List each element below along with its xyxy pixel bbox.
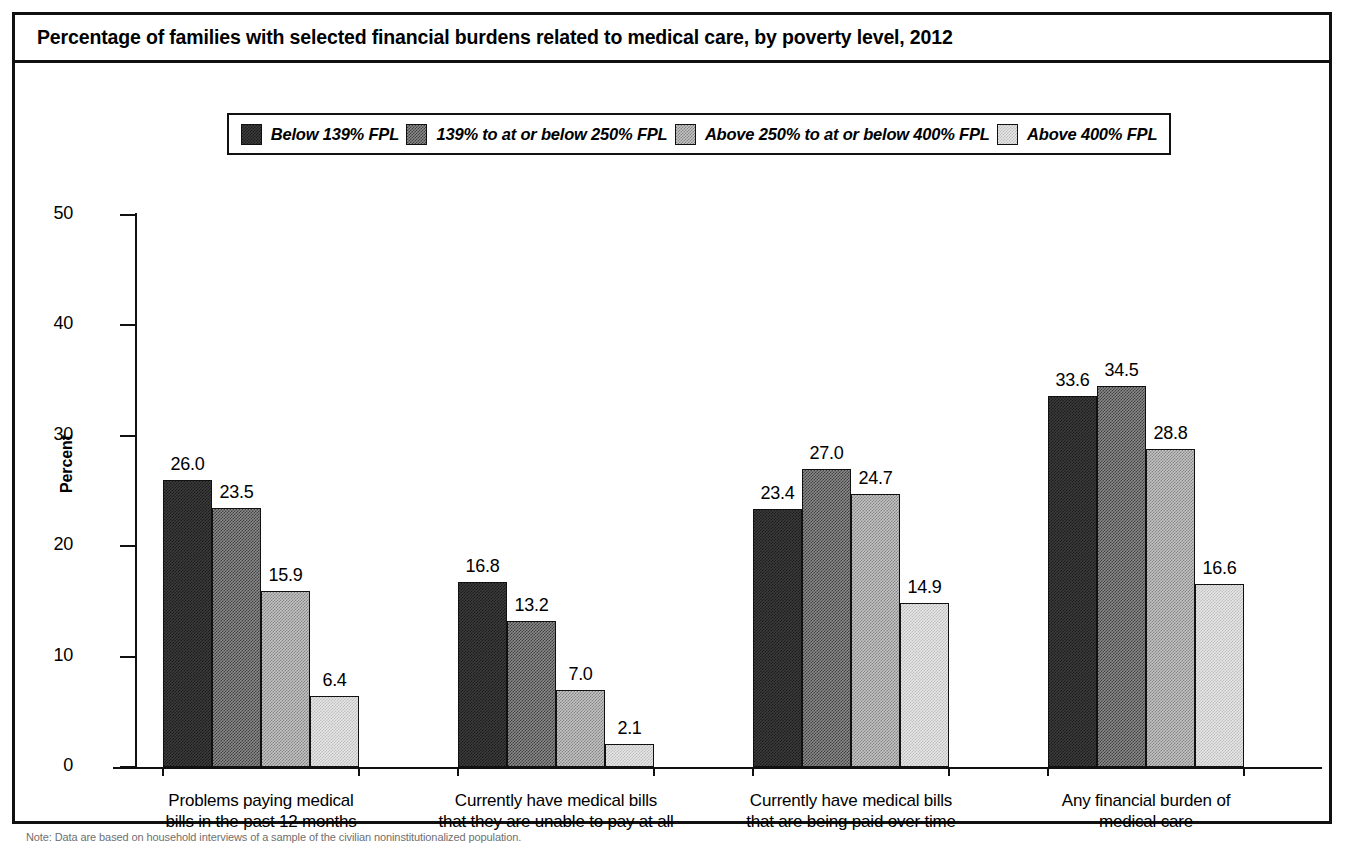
chart-page: Percentage of families with selected fin… xyxy=(0,0,1346,846)
legend-item[interactable]: 139% to at or below 250% FPL xyxy=(406,124,667,145)
legend-item[interactable]: Above 400% FPL xyxy=(997,124,1157,145)
x-axis-tick xyxy=(358,767,360,776)
legend-swatch-icon xyxy=(997,124,1018,145)
y-axis-tick-label: 40 xyxy=(13,313,73,334)
x-axis-tick xyxy=(162,767,164,776)
y-axis-tick-label: 10 xyxy=(13,645,73,666)
legend-label: Above 400% FPL xyxy=(1027,125,1157,144)
bar xyxy=(753,509,802,767)
y-axis-tick xyxy=(120,656,135,658)
bar xyxy=(851,494,900,767)
legend-swatch-icon xyxy=(675,124,696,145)
y-axis-tick xyxy=(120,545,135,547)
bar-value-label: 26.0 xyxy=(152,454,223,475)
bar xyxy=(802,469,851,767)
y-axis-tick xyxy=(120,214,135,216)
bar xyxy=(1195,584,1244,767)
legend-item[interactable]: Above 250% to at or below 400% FPL xyxy=(675,124,990,145)
bar xyxy=(163,480,212,767)
x-axis-category-label: Any financial burden ofmedical care xyxy=(976,790,1316,832)
y-axis-tick xyxy=(120,435,135,437)
bar-value-label: 27.0 xyxy=(791,443,862,464)
x-axis-category-label: Problems paying medicalbills in the past… xyxy=(91,790,431,832)
x-axis-tick xyxy=(1243,767,1245,776)
legend-label: Above 250% to at or below 400% FPL xyxy=(705,125,990,144)
bar-value-label: 16.8 xyxy=(447,556,518,577)
x-axis-tick xyxy=(1047,767,1049,776)
y-axis-tick-label: 20 xyxy=(13,534,73,555)
bar xyxy=(1048,396,1097,767)
x-axis-category-line: bills in the past 12 months xyxy=(91,811,431,832)
x-axis-line xyxy=(113,767,1322,769)
legend-item[interactable]: Below 139% FPL xyxy=(241,124,399,145)
bar xyxy=(1146,449,1195,767)
x-axis-category-line: that are being paid over time xyxy=(681,811,1021,832)
bar xyxy=(261,591,310,767)
x-axis-category-line: that they are unable to pay at all xyxy=(386,811,726,832)
bar xyxy=(556,690,605,767)
legend-swatch-icon xyxy=(241,124,262,145)
x-axis-tick xyxy=(457,767,459,776)
bar xyxy=(900,603,949,767)
y-axis-line xyxy=(135,213,137,769)
x-axis-category-label: Currently have medical billsthat are bei… xyxy=(681,790,1021,832)
bar xyxy=(605,744,654,767)
bar-value-label: 34.5 xyxy=(1086,360,1157,381)
x-axis-category-line: Problems paying medical xyxy=(91,790,431,811)
chart-legend: Below 139% FPL139% to at or below 250% F… xyxy=(227,113,1171,155)
x-axis-category-line: medical care xyxy=(976,811,1316,832)
legend-label: 139% to at or below 250% FPL xyxy=(436,125,667,144)
y-axis-title: Percent xyxy=(58,404,76,524)
y-axis-tick-label: 0 xyxy=(13,755,73,776)
bar xyxy=(507,621,556,767)
x-axis-category-line: Any financial burden of xyxy=(976,790,1316,811)
bar xyxy=(310,696,359,767)
bar xyxy=(1097,386,1146,767)
x-axis-category-line: Currently have medical bills xyxy=(681,790,1021,811)
x-axis-tick xyxy=(653,767,655,776)
x-axis-tick xyxy=(752,767,754,776)
legend-label: Below 139% FPL xyxy=(271,125,399,144)
bar xyxy=(212,508,261,767)
x-axis-category-line: Currently have medical bills xyxy=(386,790,726,811)
y-axis-tick xyxy=(120,324,135,326)
bar xyxy=(458,582,507,767)
legend-swatch-icon xyxy=(406,124,427,145)
y-axis-tick xyxy=(120,766,135,768)
x-axis-tick xyxy=(948,767,950,776)
y-axis-tick-label: 50 xyxy=(13,203,73,224)
footnote: Note: Data are based on household interv… xyxy=(26,831,521,845)
x-axis-category-label: Currently have medical billsthat they ar… xyxy=(386,790,726,832)
